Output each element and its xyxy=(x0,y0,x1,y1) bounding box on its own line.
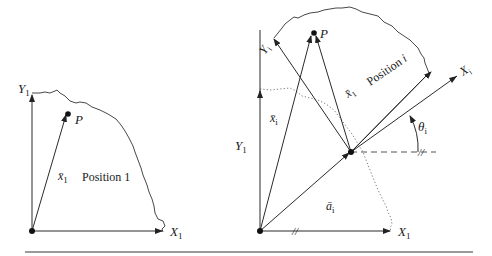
vector-ai xyxy=(260,153,349,231)
left-panel-position-1: Y1 X1 P x̄1 Position 1 xyxy=(18,81,182,241)
moving-xi-label-group: Xi xyxy=(456,61,474,81)
position-1-label: Position 1 xyxy=(82,170,130,184)
position-i-label: Position i xyxy=(364,51,410,88)
y1-axis-label: Y1 xyxy=(18,81,30,98)
point-p-label: P xyxy=(74,112,83,127)
moving-yi-label-group: Yi xyxy=(256,41,275,58)
origin-point xyxy=(29,228,35,234)
moving-xi-label: Xi xyxy=(456,61,474,81)
vector-xi-label: x̄i xyxy=(269,111,278,127)
point-p xyxy=(65,111,71,117)
bottom-rule xyxy=(25,251,473,253)
x1-axis-label: X1 xyxy=(169,224,182,241)
angle-theta-arc xyxy=(410,116,418,152)
vector-x1-label: x̄1 xyxy=(57,169,68,185)
vector-ai-label: āi xyxy=(326,199,335,215)
position-i-label-group: Position i xyxy=(364,51,410,88)
right-panel-position-i: // // P Y1 X1 x̄i āi θi xyxy=(235,7,474,241)
point-p-position-i xyxy=(311,30,317,36)
moving-origin-point xyxy=(348,149,354,155)
parallel-mark-x1: // xyxy=(291,225,299,237)
fixed-y1-label: Y1 xyxy=(235,138,247,155)
body-outline-position-1 xyxy=(32,90,165,232)
moving-xi-axis-line xyxy=(351,76,457,152)
fixed-x1-label: X1 xyxy=(397,224,410,241)
moving-yi-label: Yi xyxy=(256,41,275,58)
vector-x1-moving-label: x̄1 xyxy=(341,84,359,103)
planar-displacement-diagram: Y1 X1 P x̄1 Position 1 // xyxy=(0,0,492,256)
fixed-origin-point xyxy=(257,228,263,234)
point-p-label-position-i: P xyxy=(319,26,328,41)
vector-xi xyxy=(260,36,311,231)
vector-x1-moving-label-group: x̄1 xyxy=(341,84,359,103)
angle-theta-label: θi xyxy=(418,119,427,136)
